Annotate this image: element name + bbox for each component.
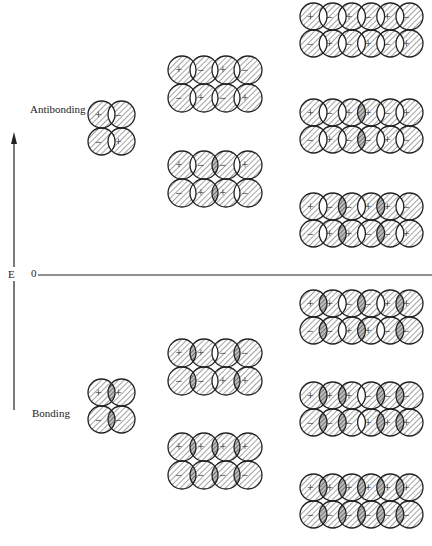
plus-sign: + (346, 324, 353, 338)
minus-sign: − (384, 324, 391, 338)
mo-energy-diagram: +−−+++−−+−+−−+−++−−+−++−++−−−−++++++−−−−… (0, 0, 432, 546)
minus-sign: − (403, 133, 410, 147)
minus-sign: − (198, 63, 205, 77)
minus-sign: − (176, 374, 183, 388)
minus-sign: − (220, 346, 227, 360)
plus-sign: + (365, 200, 372, 214)
orbital-row-bottom: −−++−− (300, 317, 423, 344)
orbital-row-bottom: −+−+−+ (300, 30, 423, 57)
energy-axis-label: E (8, 267, 15, 281)
plus-sign: + (403, 297, 410, 311)
plus-sign: + (307, 389, 314, 403)
plus-sign: + (326, 297, 333, 311)
orbital-level: +−−+−++− (168, 151, 262, 207)
minus-sign: − (365, 227, 372, 241)
plus-sign: + (198, 91, 205, 105)
minus-sign: − (242, 468, 249, 482)
arrow-up-icon (11, 132, 17, 144)
orbital-row-bottom: −+−+ (168, 84, 262, 112)
minus-sign: − (384, 106, 391, 120)
minus-sign: − (95, 135, 102, 149)
plus-sign: + (220, 440, 227, 454)
minus-sign: − (326, 324, 333, 338)
plus-sign: + (384, 133, 391, 147)
orbital-row-bottom: −−−− (168, 461, 262, 489)
plus-sign: + (95, 386, 102, 400)
plus-sign: + (242, 158, 249, 172)
plus-sign: + (346, 389, 353, 403)
plus-sign: + (346, 481, 353, 495)
minus-sign: − (384, 227, 391, 241)
plus-sign: + (384, 481, 391, 495)
minus-sign: − (403, 10, 410, 24)
plus-sign: + (198, 346, 205, 360)
plus-sign: + (198, 186, 205, 200)
minus-sign: − (346, 200, 353, 214)
minus-sign: − (346, 297, 353, 311)
zero-label: 0 (31, 267, 37, 279)
plus-sign: + (307, 106, 314, 120)
orbital-row-bottom: −−++ (168, 367, 262, 395)
minus-sign: − (242, 63, 249, 77)
minus-sign: − (242, 186, 249, 200)
plus-sign: + (384, 416, 391, 430)
plus-sign: + (384, 297, 391, 311)
minus-sign: − (403, 508, 410, 522)
orbital-set-6-atom: +−+−+−−+−+−++−++−+−+−−+−+−−++−−++−−+++−−… (300, 3, 423, 528)
orbital-row-top: +−++−+ (300, 99, 423, 126)
minus-sign: − (198, 468, 205, 482)
minus-sign: − (176, 186, 183, 200)
plus-sign: + (307, 297, 314, 311)
plus-sign: + (176, 440, 183, 454)
plus-sign: + (326, 133, 333, 147)
minus-sign: − (384, 508, 391, 522)
orbital-row-bottom: −−−+++ (300, 409, 423, 436)
minus-sign: − (307, 416, 314, 430)
orbital-level: +−+−−+−+ (168, 56, 262, 112)
plus-sign: + (346, 10, 353, 24)
minus-sign: − (384, 37, 391, 51)
orbital-level: +−+−+−−+−+−+ (300, 3, 423, 57)
plus-sign: + (220, 186, 227, 200)
orbital-level: ++−− (88, 379, 135, 433)
plus-sign: + (403, 106, 410, 120)
minus-sign: − (384, 389, 391, 403)
plus-sign: + (365, 416, 372, 430)
plus-sign: + (384, 200, 391, 214)
plus-sign: + (326, 389, 333, 403)
minus-sign: − (326, 10, 333, 24)
orbital-row-top: ++++++ (300, 474, 423, 501)
plus-sign: + (242, 91, 249, 105)
plus-sign: + (95, 108, 102, 122)
orbital-row-bottom: −+−−+− (300, 126, 423, 153)
orbital-row-bottom: −++−−+ (300, 220, 423, 247)
orbital-set-2-atom: +−−+++−− (88, 101, 135, 433)
minus-sign: − (115, 108, 122, 122)
orbital-sets: +−−+++−−+−+−−+−++−−+−++−++−−−−++++++−−−−… (88, 3, 423, 528)
minus-sign: − (198, 374, 205, 388)
minus-sign: − (326, 200, 333, 214)
orbital-row-bottom: −−−−−− (300, 501, 423, 528)
plus-sign: + (307, 10, 314, 24)
plus-sign: + (176, 346, 183, 360)
plus-sign: + (326, 227, 333, 241)
orbital-level: ++++++−−−−−− (300, 474, 423, 528)
minus-sign: − (346, 416, 353, 430)
orbital-row-top: ++−− (168, 339, 262, 367)
plus-sign: + (220, 63, 227, 77)
plus-sign: + (176, 158, 183, 172)
plus-sign: + (365, 481, 372, 495)
minus-sign: − (326, 508, 333, 522)
minus-sign: − (403, 200, 410, 214)
orbital-row-top: +++−−− (300, 382, 423, 409)
minus-sign: − (307, 508, 314, 522)
orbital-row-bottom: −++− (168, 179, 262, 207)
plus-sign: + (115, 386, 122, 400)
minus-sign: − (326, 416, 333, 430)
plus-sign: + (346, 106, 353, 120)
orbital-row-top: ++−−++ (300, 290, 423, 317)
minus-sign: − (307, 37, 314, 51)
orbital-set-4-atom: +−+−−+−++−−+−++−++−−−−++++++−−−− (168, 56, 262, 489)
minus-sign: − (176, 468, 183, 482)
orbital-row-bottom: −− (88, 406, 135, 433)
